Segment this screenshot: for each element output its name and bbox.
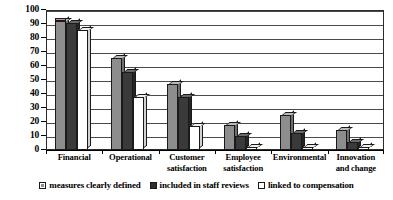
y-tick-value: 70: [30, 46, 46, 56]
y-tick-value: 30: [30, 102, 46, 112]
bar-face: [224, 125, 235, 150]
y-tick-value: 40: [30, 88, 46, 98]
bar-cap-accent: [55, 18, 66, 21]
category-label-line1: Financial: [58, 152, 91, 162]
bar-top-face: [349, 139, 364, 142]
bar-group: [280, 10, 313, 150]
bar-top-face: [226, 122, 241, 125]
bar-side-face: [88, 25, 91, 148]
y-tick-value: 100: [25, 4, 46, 14]
category-label-line1: Innovation: [337, 152, 376, 162]
category-label-line2: and change: [319, 163, 393, 174]
category-label-line1: Operational: [109, 152, 152, 162]
bar: [111, 58, 122, 150]
bar-face: [66, 23, 77, 150]
y-tick-label: 70: [0, 46, 46, 58]
bar-group: [336, 10, 369, 150]
bar: [178, 97, 189, 150]
white-square-swatch: [258, 182, 265, 189]
bar-top-face: [191, 123, 206, 126]
legend-label: measures clearly defined: [49, 180, 140, 190]
bar-face: [235, 136, 246, 150]
bar: [77, 30, 88, 150]
y-tick-label: 20: [0, 116, 46, 128]
bar: [133, 97, 144, 150]
dark-square-swatch: [150, 182, 157, 189]
bar-face: [55, 21, 66, 150]
y-tick-value: 50: [30, 74, 46, 84]
bar-face: [77, 30, 88, 150]
legend-label: linked to compensation: [268, 180, 354, 190]
bar-face: [111, 58, 122, 150]
bar-top-face: [237, 133, 252, 136]
category-label-line1: Customer: [169, 152, 204, 162]
y-tick-label: 100: [0, 4, 46, 16]
bar-chart: 1009080706050403020100 FinancialOperatio…: [0, 0, 393, 200]
legend-item[interactable]: included in staff reviews: [150, 180, 249, 190]
bar-top-face: [293, 130, 308, 133]
category-label-line2: satisfaction: [206, 163, 280, 174]
y-tick-label: 10: [0, 130, 46, 142]
bar-face: [336, 130, 347, 150]
bar-top-face: [304, 144, 319, 147]
bars-layer: [46, 10, 384, 150]
bar-group: [55, 10, 88, 150]
bar-side-face: [144, 92, 147, 148]
bar-face: [133, 97, 144, 150]
bar-top-face: [338, 127, 353, 130]
bar: [122, 72, 133, 150]
bar-group: [167, 10, 200, 150]
bar: [235, 136, 246, 150]
bar-face: [291, 133, 302, 150]
bar: [224, 125, 235, 150]
bar-top-face: [169, 81, 184, 84]
category-label: Innovationand change: [319, 152, 393, 174]
bar-top-face: [79, 27, 94, 30]
bar-face: [280, 115, 291, 150]
category-label-line1: Employee: [226, 152, 261, 162]
bar-face: [178, 97, 189, 150]
bar-face: [347, 142, 358, 150]
y-axis: 1009080706050403020100: [0, 10, 46, 151]
category-labels: FinancialOperationalCustomersatisfaction…: [0, 152, 393, 176]
y-tick-value: 20: [30, 116, 46, 126]
bar: [291, 133, 302, 150]
chart-legend: measures clearly definedincluded in staf…: [0, 180, 393, 190]
y-tick-label: 40: [0, 88, 46, 100]
y-tick-label: 30: [0, 102, 46, 114]
gray-square-swatch: [39, 182, 46, 189]
bar: [167, 84, 178, 150]
y-tick-value: 80: [30, 32, 46, 42]
y-tick-label: 80: [0, 32, 46, 44]
bar-face: [167, 84, 178, 150]
y-tick-value: 60: [30, 60, 46, 70]
y-tick-value: 90: [30, 18, 46, 28]
y-tick-label: 50: [0, 74, 46, 86]
y-tick-label: 60: [0, 60, 46, 72]
bar-top-face: [68, 20, 83, 23]
bar-group: [111, 10, 144, 150]
y-tick-label: 90: [0, 18, 46, 30]
bar-top-face: [113, 55, 128, 58]
bar: [66, 23, 77, 150]
bar: [189, 126, 200, 150]
bar: [55, 21, 66, 150]
bar-top-face: [360, 144, 375, 147]
y-tick-value: 10: [30, 130, 46, 140]
bar: [280, 115, 291, 150]
bar-group: [224, 10, 257, 150]
bar-top-face: [135, 94, 150, 97]
bar-top-face: [282, 112, 297, 115]
bar: [347, 142, 358, 150]
bar-top-face: [248, 144, 263, 147]
bar-top-face: [124, 69, 139, 72]
legend-item[interactable]: measures clearly defined: [39, 180, 140, 190]
legend-label: included in staff reviews: [160, 180, 249, 190]
bar-face: [122, 72, 133, 150]
legend-item[interactable]: linked to compensation: [258, 180, 354, 190]
bar-top-face: [180, 94, 195, 97]
bar: [336, 130, 347, 150]
bar-face: [189, 126, 200, 150]
